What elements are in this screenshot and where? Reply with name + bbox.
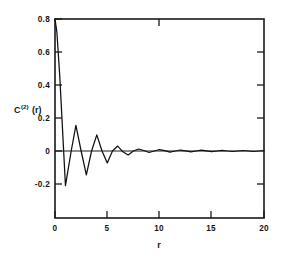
plot-frame bbox=[55, 19, 264, 218]
y-tick-label-0: 0 bbox=[45, 147, 50, 156]
y-tick-label-0.2: 0.2 bbox=[38, 114, 50, 123]
y-axis-title-argument: (r) bbox=[32, 105, 42, 115]
x-tick-label-5: 5 bbox=[105, 224, 110, 233]
x-tick-label-15: 15 bbox=[206, 224, 216, 233]
correlation-function-plot: 0.8 0.6 0.4 0.2 0 -0.2 0 5 10 15 20 r C … bbox=[0, 0, 288, 273]
y-axis-tick-labels: 0.8 0.6 0.4 0.2 0 -0.2 bbox=[35, 15, 50, 189]
x-axis-tick-labels: 0 5 10 15 20 bbox=[53, 224, 269, 233]
data-series-curve bbox=[55, 19, 264, 186]
y-tick-label-0.6: 0.6 bbox=[38, 48, 50, 57]
y-axis-title-base: C bbox=[14, 105, 21, 115]
chart-figure: 0.8 0.6 0.4 0.2 0 -0.2 0 5 10 15 20 r C … bbox=[0, 0, 288, 273]
y-tick-label-0.8: 0.8 bbox=[38, 15, 50, 24]
y-axis-title: C (2) (r) bbox=[14, 103, 42, 115]
x-axis-title: r bbox=[157, 240, 161, 250]
y-axis-title-superscript: (2) bbox=[21, 103, 29, 110]
x-tick-label-0: 0 bbox=[53, 224, 58, 233]
y-axis-ticks-right bbox=[257, 52, 264, 184]
y-tick-label-0.4: 0.4 bbox=[38, 81, 50, 90]
x-tick-label-20: 20 bbox=[259, 224, 269, 233]
x-tick-label-10: 10 bbox=[154, 224, 164, 233]
y-tick-label--0.2: -0.2 bbox=[35, 180, 50, 189]
x-axis-ticks bbox=[55, 211, 264, 218]
